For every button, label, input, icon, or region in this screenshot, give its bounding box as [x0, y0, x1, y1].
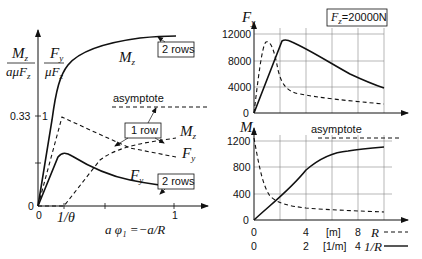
asymptote-label: asymptote	[311, 123, 362, 135]
box-2rows-low: 2 rows	[162, 175, 195, 187]
x-axis-label: a φ₁ =−a/R	[105, 222, 165, 237]
right-top-chart: Fy Fz=20000N 12000 8000 4000 0	[222, 9, 408, 119]
tick-theta: 1/θ	[57, 210, 75, 225]
tick-R-0: 0	[251, 226, 257, 238]
tick-0-x: 0	[36, 209, 42, 221]
tick-invR-0: 0	[251, 240, 257, 252]
svg-text:Fy: Fy	[49, 45, 63, 63]
fy-2rows-curve	[38, 153, 176, 206]
tick-4000: 4000	[228, 81, 252, 93]
tick-R-unit: [m]	[326, 226, 341, 238]
figure: Mz aμFz Fy μFz 0.33 1 0 0 1/θ 1 a φ₁ =−a…	[0, 0, 422, 259]
tick-800: 800	[233, 161, 251, 173]
box-2rows-top: 2 rows	[162, 43, 195, 55]
tick-1-x: 1	[172, 209, 178, 221]
legend-invR: 1/R	[364, 239, 382, 254]
ylabel-outer: Mz aμFz	[6, 45, 35, 81]
tick-0.33: 0.33	[10, 110, 31, 122]
box-1row: 1 row	[131, 124, 158, 136]
tick-8000: 8000	[228, 55, 252, 67]
label-mz-top: Mz	[118, 49, 136, 67]
asymptote-label: asymptote	[113, 92, 164, 104]
tick-1: 1	[42, 110, 48, 122]
right-bottom-chart: Mz asymptote 1200 800 400 0 0 4 [m] 8 R …	[227, 119, 408, 254]
svg-text:Mz: Mz	[11, 45, 29, 63]
label-fy-low: Fy	[129, 167, 143, 185]
label-fy-mid: Fy	[181, 145, 195, 163]
svg-text:aμFz: aμFz	[6, 64, 31, 81]
tick-400: 400	[233, 188, 251, 200]
tick-invR-4: 4	[355, 240, 361, 252]
tick-R-4: 4	[303, 226, 309, 238]
label-mz-mid: Mz	[179, 123, 197, 141]
tick-1200: 1200	[227, 135, 251, 147]
tick-invR-2: 2	[303, 240, 309, 252]
ylabel-fy: Fy	[241, 9, 255, 27]
mz-1row-curve	[38, 138, 176, 206]
tick-invR-unit: [1/m]	[323, 240, 346, 252]
tick-12000: 12000	[222, 28, 251, 40]
tick-0-y: 0	[28, 200, 34, 212]
fy-R-curve	[254, 42, 384, 113]
legend-R: R	[370, 225, 379, 240]
tick-R-8: 8	[355, 226, 361, 238]
left-chart: Mz aμFz Fy μFz 0.33 1 0 0 1/θ 1 a φ₁ =−a…	[6, 30, 208, 237]
tick-0: 0	[243, 214, 249, 226]
tick-0: 0	[243, 107, 249, 119]
